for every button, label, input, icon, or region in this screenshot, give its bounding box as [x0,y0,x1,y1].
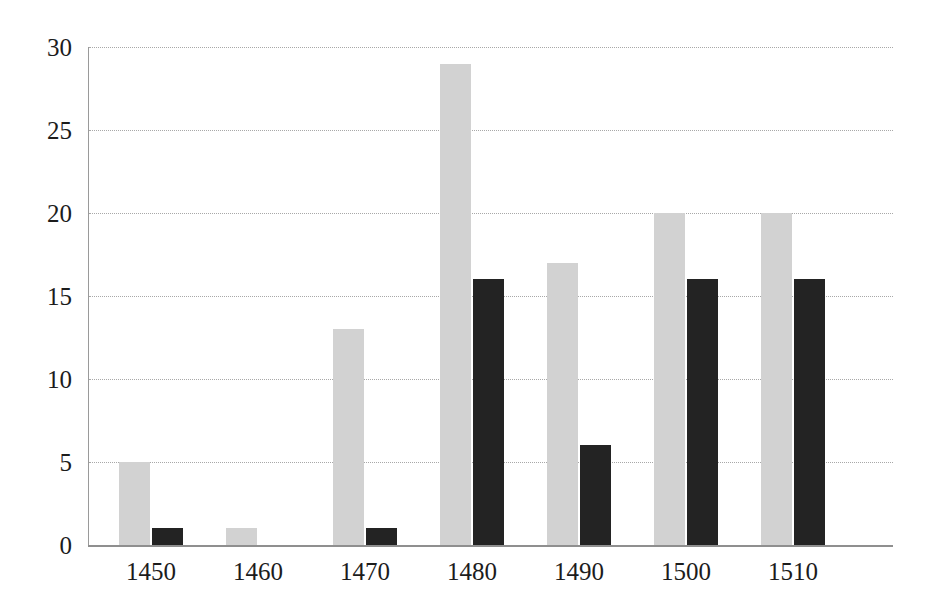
chart-figure: 051015202530 145014601470148014901500151… [0,0,934,604]
bar-group [119,47,183,545]
bar-group [547,47,611,545]
bar [226,528,257,545]
x-axis-line [88,545,893,547]
bar-group [333,47,397,545]
bar [687,279,718,545]
bar [440,64,471,545]
bar [333,329,364,545]
x-tick-label: 1450 [126,559,176,584]
x-tick-label: 1480 [447,559,497,584]
bar-group [226,47,290,545]
y-tick-label: 20 [47,201,72,226]
x-tick-label: 1470 [340,559,390,584]
y-tick-label: 15 [47,284,72,309]
y-tick-label: 25 [47,118,72,143]
x-tick-label: 1510 [768,559,818,584]
plot-area: 051015202530 145014601470148014901500151… [88,47,893,545]
bar [794,279,825,545]
x-tick-label: 1500 [661,559,711,584]
bar [761,213,792,545]
bar [152,528,183,545]
y-tick-label: 10 [47,367,72,392]
bar [119,462,150,545]
bar-group [761,47,825,545]
y-tick-label: 30 [47,35,72,60]
bar [473,279,504,545]
bar [366,528,397,545]
x-tick-label: 1460 [233,559,283,584]
y-tick-label: 5 [60,450,73,475]
bar [654,213,685,545]
bar-group [654,47,718,545]
x-tick-label: 1490 [554,559,604,584]
bar [547,263,578,545]
bar-group [440,47,504,545]
y-tick-label: 0 [60,533,73,558]
bar [580,445,611,545]
y-axis-line [88,47,89,546]
